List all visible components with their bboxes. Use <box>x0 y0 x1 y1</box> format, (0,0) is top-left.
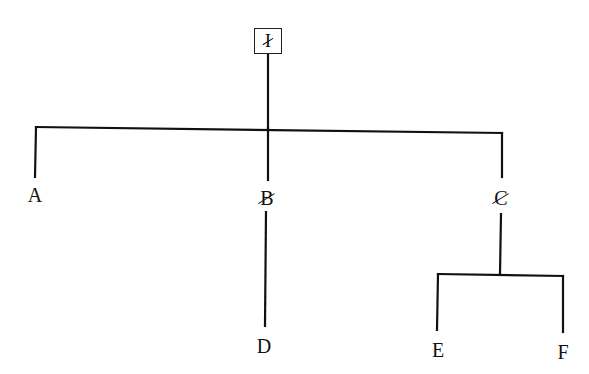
node-root-I: I <box>254 28 282 54</box>
node-label-A: A <box>28 184 42 206</box>
node-B: B <box>252 188 282 208</box>
edge-to-E <box>437 274 438 330</box>
node-label-C: C <box>494 188 507 208</box>
node-label-F: F <box>557 341 568 363</box>
edge-to-A <box>35 127 36 177</box>
node-F: F <box>548 342 578 362</box>
edge-C-bar <box>438 274 563 276</box>
edge-B-D <box>265 212 266 326</box>
node-E: E <box>423 340 453 360</box>
node-A: A <box>20 185 50 205</box>
node-label-E: E <box>432 339 444 361</box>
node-C: C <box>486 188 516 208</box>
node-label-I: I <box>265 29 271 53</box>
node-D: D <box>249 336 279 356</box>
edge-C-stem <box>500 214 501 274</box>
node-label-B: B <box>260 188 273 208</box>
node-label-D: D <box>257 335 271 357</box>
